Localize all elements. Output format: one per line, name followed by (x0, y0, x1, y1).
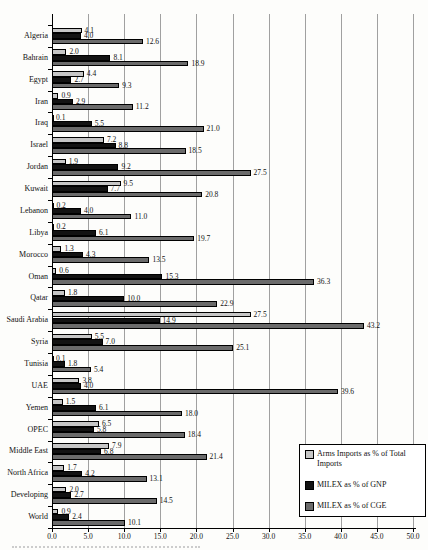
category-label: Morocco (0, 250, 48, 260)
bar-value-label: 25.1 (236, 344, 249, 352)
bar-milex-cge (52, 192, 202, 198)
y-axis-tick (48, 200, 53, 201)
category-label: Israel (0, 140, 48, 150)
bar-milex-cge (52, 279, 314, 285)
bar-milex-cge (52, 345, 233, 351)
cropped-caption-remnant (12, 546, 200, 548)
category-label: Oman (0, 272, 48, 282)
gridline (124, 14, 125, 528)
y-axis-tick (48, 287, 53, 288)
y-axis-tick (48, 375, 53, 376)
legend-item-milex-cge: MILEX as % of CGE (303, 501, 423, 511)
category-label: Qatar (0, 293, 48, 303)
bar-value-label: 43.2 (367, 322, 380, 330)
bar-value-label: 39.6 (341, 388, 354, 396)
bar-value-label: 21.0 (207, 125, 220, 133)
bar-value-label: 18.4 (188, 431, 201, 439)
category-label: North Africa (0, 468, 48, 478)
category-label: Egypt (0, 75, 48, 85)
y-axis-tick (48, 331, 53, 332)
y-axis-tick (48, 91, 53, 92)
bar-value-label: 27.5 (254, 169, 267, 177)
y-axis-tick (48, 244, 53, 245)
gridline (160, 14, 161, 528)
bar-value-label: 5.4 (94, 366, 103, 374)
category-label: Libya (0, 228, 48, 238)
bar-milex-cge (52, 126, 204, 132)
category-label: Jordan (0, 162, 48, 172)
bar-milex-cge (52, 170, 251, 176)
legend-item-arms-imports: Arms Imports as % of Total Imports (303, 449, 423, 468)
y-axis-tick (48, 309, 53, 310)
bar-milex-cge (52, 498, 157, 504)
category-label: Lebanon (0, 206, 48, 216)
bar-milex-cge (52, 236, 194, 242)
y-axis-tick (48, 506, 53, 507)
bar-milex-cge (52, 148, 186, 154)
y-axis-tick (48, 69, 53, 70)
x-axis-tick-label: 45.0 (362, 532, 392, 541)
category-label: Developing (0, 490, 48, 500)
bar-milex-cge (52, 83, 119, 89)
y-axis-tick (48, 25, 53, 26)
y-axis-tick (48, 484, 53, 485)
category-label: Kuwait (0, 184, 48, 194)
category-label: Iran (0, 97, 48, 107)
x-axis-tick-label: 25.0 (218, 532, 248, 541)
legend-item-milex-gnp: MILEX as % of GNP (303, 480, 423, 490)
gridline (233, 14, 234, 528)
category-label: UAE (0, 381, 48, 391)
legend: Arms Imports as % of Total ImportsMILEX … (299, 444, 426, 517)
bar-value-label: 20.8 (205, 191, 218, 199)
legend-label: Arms Imports as % of Total Imports (317, 449, 423, 468)
bar-value-label: 12.6 (146, 38, 159, 46)
x-axis-tick-label: 0.0 (37, 532, 67, 541)
x-axis-tick-label: 20.0 (181, 532, 211, 541)
y-axis-tick (48, 222, 53, 223)
y-axis-tick (48, 178, 53, 179)
category-label: Algeria (0, 31, 48, 41)
y-axis-tick (48, 47, 53, 48)
bar-value-label: 22.9 (220, 300, 233, 308)
bar-milex-cge (52, 61, 188, 67)
bar-value-label: 36.3 (317, 278, 330, 286)
bar-value-label: 11.0 (134, 213, 147, 221)
y-axis-tick (48, 353, 53, 354)
x-axis-tick-label: 10.0 (109, 532, 139, 541)
y-axis-tick (48, 462, 53, 463)
category-label: Tunisia (0, 359, 48, 369)
bar-value-label: 13.1 (150, 475, 163, 483)
bar-value-label: 18.0 (185, 410, 198, 418)
bar-milex-cge (52, 257, 149, 263)
category-label: World (0, 512, 48, 522)
x-axis-tick-label: 40.0 (326, 532, 356, 541)
x-axis-tick-label: 5.0 (73, 532, 103, 541)
bar-milex-cge (52, 104, 133, 110)
legend-swatch-milex-gnp (305, 481, 314, 490)
bar-milex-cge (52, 432, 185, 438)
bar-milex-cge (52, 389, 338, 395)
bar-value-label: 4.4 (87, 70, 96, 78)
bar-value-label: 13.5 (152, 256, 165, 264)
gridline (269, 14, 270, 528)
bar-milex-cge (52, 476, 147, 482)
y-axis-tick (48, 112, 53, 113)
bar-value-label: 14.5 (160, 497, 173, 505)
category-label: Syria (0, 337, 48, 347)
bar-milex-cge (52, 214, 131, 220)
bar-value-label: 27.5 (254, 311, 267, 319)
category-label: Middle East (0, 446, 48, 456)
legend-label: MILEX as % of GNP (317, 480, 386, 490)
x-axis-tick-label: 30.0 (254, 532, 284, 541)
y-axis-tick (48, 134, 53, 135)
category-label: Saudi Arabia (0, 315, 48, 325)
bar-value-label: 9.3 (122, 82, 131, 90)
bar-value-label: 10.1 (128, 519, 141, 527)
bar-value-label: 18.9 (191, 60, 204, 68)
gridline (196, 14, 197, 528)
y-axis-tick (48, 266, 53, 267)
category-label: Bahrain (0, 53, 48, 63)
bar-value-label: 9.5 (124, 180, 133, 188)
bar-value-label: 11.2 (136, 103, 149, 111)
x-axis-tick-label: 15.0 (145, 532, 175, 541)
